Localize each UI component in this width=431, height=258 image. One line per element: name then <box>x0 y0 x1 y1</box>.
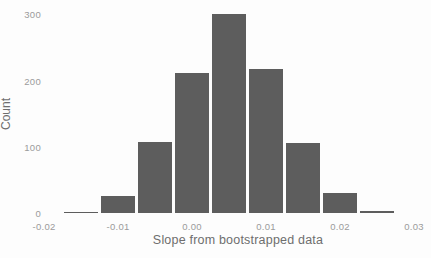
y-axis-tick-label: 100 <box>11 141 41 152</box>
histogram-bar <box>360 211 395 213</box>
histogram-bar <box>64 212 99 213</box>
histogram-bar <box>286 143 321 213</box>
plot-area: 0100200300-0.02-0.010.000.010.020.03 <box>0 0 431 258</box>
y-axis-tick-label: 200 <box>11 75 41 86</box>
y-axis-tick-label: 300 <box>11 9 41 20</box>
histogram-figure: 0100200300-0.02-0.010.000.010.020.03 Cou… <box>0 0 431 258</box>
x-axis-title: Slope from bootstrapped data <box>108 233 368 247</box>
y-axis-tick-label: 0 <box>11 208 41 219</box>
x-axis-tick-label: 0.01 <box>256 221 276 232</box>
x-axis-tick-label: -0.02 <box>32 221 55 232</box>
y-axis-title: Count <box>0 80 13 148</box>
histogram-bar <box>175 73 210 213</box>
x-axis-tick-label: 0.02 <box>330 221 350 232</box>
histogram-bar <box>323 193 358 213</box>
x-axis-tick-label: 0.03 <box>404 221 424 232</box>
x-axis-tick-label: -0.01 <box>106 221 129 232</box>
histogram-bar <box>212 14 247 213</box>
histogram-bar <box>101 196 136 213</box>
x-axis-tick-label: 0.00 <box>182 221 202 232</box>
histogram-bar <box>138 142 173 213</box>
histogram-bar <box>249 69 284 213</box>
